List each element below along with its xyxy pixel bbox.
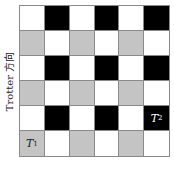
grid-cell-white (95, 131, 120, 156)
grid-cell-gray (70, 81, 95, 106)
grid-cell-gray (20, 81, 45, 106)
y-axis-label: Trotter 方向 (1, 5, 17, 157)
grid-cell-white (45, 131, 70, 156)
grid-cell-gray (119, 131, 144, 156)
grid-cell-white (70, 56, 95, 81)
grid-cell-gray (20, 31, 45, 56)
grid-cell-gray (70, 31, 95, 56)
grid-cell-gray (119, 81, 144, 106)
grid-cell-black (144, 56, 169, 81)
grid-cell-black (45, 56, 70, 81)
grid-cell-white (119, 56, 144, 81)
grid-cell-gray (70, 131, 95, 156)
grid-cell-white (144, 81, 169, 106)
y-axis-label-text: Trotter 方向 (2, 51, 17, 110)
grid-cell-gray: T1 (20, 131, 45, 156)
grid-cell-gray (119, 31, 144, 56)
x-axis-label-cropped (19, 163, 170, 171)
grid-cell-black (95, 106, 120, 131)
grid-cell-white (95, 81, 120, 106)
grid-cell-white (119, 106, 144, 131)
grid-cell-black (144, 6, 169, 31)
grid-cell-black: T2 (144, 106, 169, 131)
grid-cell-white (20, 56, 45, 81)
grid-cell-black (95, 6, 120, 31)
grid-cell-white (45, 81, 70, 106)
cell-label-t2: T2 (144, 106, 169, 130)
grid-cell-black (45, 106, 70, 131)
grid-cell-white (95, 31, 120, 56)
grid-cell-white (119, 6, 144, 31)
grid-cell-white (20, 6, 45, 31)
cell-label-t1: T1 (20, 131, 44, 156)
checkerboard-grid: T2T1 (19, 5, 170, 157)
grid-cell-black (45, 6, 70, 31)
grid-cell-white (20, 106, 45, 131)
grid-cell-white (144, 31, 169, 56)
grid-cell-white (70, 6, 95, 31)
grid-cell-black (95, 56, 120, 81)
grid-cell-white (70, 106, 95, 131)
grid-cell-white (144, 131, 169, 156)
grid-cell-white (45, 31, 70, 56)
